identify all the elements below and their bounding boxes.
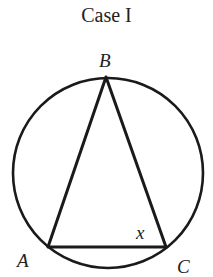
circle-triangle-diagram: B A C x xyxy=(0,0,213,277)
triangle-abc xyxy=(48,77,166,247)
vertex-label-b: B xyxy=(99,50,111,71)
angle-label-x: x xyxy=(135,222,145,243)
circumscribed-circle xyxy=(13,78,203,268)
vertex-label-a: A xyxy=(15,250,29,271)
vertex-label-c: C xyxy=(177,256,190,277)
